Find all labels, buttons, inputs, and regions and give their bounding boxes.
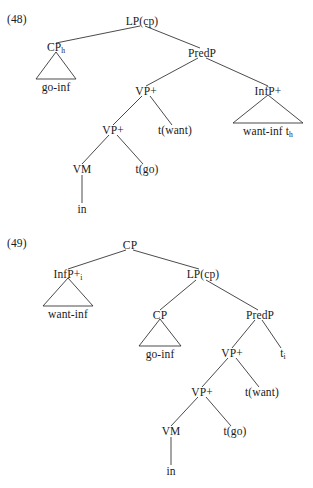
- edge-vpplus-vm: [82, 135, 109, 164]
- tree-48-leaf-want-inf-t-label: want-inf t: [243, 125, 289, 137]
- triangle-want-inf-49: [43, 278, 93, 306]
- tree-49-node-vm-label: VM: [162, 425, 181, 437]
- tree-49-node-cp-inner: CP: [153, 310, 167, 322]
- tree-49-node-vp-plus-lower-label: VP+: [191, 386, 213, 398]
- edge-vpplus-vpplus: [113, 96, 142, 125]
- edge-predp-vpplus-49: [232, 320, 255, 348]
- tree-49-node-lp-cp: LP(cp): [187, 269, 220, 281]
- tree-48-node-vp-plus-lower: VP+: [102, 125, 124, 137]
- tree-49-leaf-want-inf: want-inf: [48, 309, 88, 321]
- tree-48-node-t-go-label: t(go): [136, 163, 159, 175]
- tree-48-node-cp-h-label: CP: [47, 41, 61, 53]
- tree-49-node-lp-cp-label: LP(cp): [187, 268, 220, 280]
- tree-49-node-predp: PredP: [246, 310, 274, 322]
- edge-predp-ti: [262, 320, 281, 348]
- tree-49-node-predp-label: PredP: [246, 309, 274, 321]
- tree-49-node-cp-root: CP: [123, 240, 137, 252]
- syntax-tree-figure-48: (48) LP(cp) CPh PredP VP+ In: [0, 0, 313, 228]
- tree-48-node-cp-h: CPh: [47, 42, 65, 54]
- tree-48-node-t-go: t(go): [136, 164, 159, 176]
- tree-49-node-infp-plus-i-subscript: i: [80, 273, 82, 282]
- triangle-want-inf: [233, 95, 303, 123]
- tree-49-node-t-go: t(go): [224, 426, 247, 438]
- tree-49-leaf-in-label: in: [166, 465, 175, 477]
- tree-48-leaf-want-inf-t: want-inf th: [243, 126, 293, 138]
- triangle-go-inf-49: [139, 319, 181, 346]
- tree-49-node-cp-inner-label: CP: [153, 309, 167, 321]
- tree-49-node-t-want: t(want): [245, 387, 279, 399]
- tree-48-leaf-in: in: [77, 204, 86, 216]
- tree-49-node-t-go-label: t(go): [224, 425, 247, 437]
- edge-lpcp-cph: [56, 26, 140, 43]
- tree-49-node-vp-plus-lower: VP+: [191, 387, 213, 399]
- edge-vpplus-vm-49: [171, 397, 198, 426]
- edge-lpcp-predp-49: [206, 280, 258, 310]
- tree-48-leaf-go-inf: go-inf: [42, 82, 71, 94]
- edge-vpplus-twant: [150, 96, 172, 125]
- edge-vpplus-vpplus-49: [202, 358, 228, 387]
- tree-48-node-infp-plus: InfP+: [255, 86, 282, 98]
- tree-49-node-infp-plus-i-label: InfP+: [53, 268, 80, 280]
- edge-lpcp-predp: [145, 26, 200, 48]
- tree-48-node-lp-cp: LP(cp): [126, 16, 159, 28]
- tree-49-node-t-i: ti: [280, 348, 286, 360]
- tree-48-node-vp-plus-upper-label: VP+: [135, 85, 157, 97]
- edge-vpplus-twant-49: [236, 358, 259, 387]
- syntax-tree-figure-49: (49) CP InfP+i LP(cp): [0, 228, 313, 488]
- tree-49-leaf-want-inf-label: want-inf: [48, 308, 88, 320]
- edge-predp-vpplus: [146, 58, 198, 86]
- tree-48-leaf-go-inf-label: go-inf: [42, 81, 71, 93]
- tree-48-leaf-want-inf-t-subscript: h: [289, 130, 293, 139]
- edge-cp-infp: [68, 250, 126, 269]
- tree-48-leaf-in-label: in: [77, 203, 86, 215]
- tree-48-lines: [0, 0, 313, 228]
- triangle-go-inf: [36, 52, 76, 79]
- tree-49-leaf-go-inf-label: go-inf: [146, 348, 175, 360]
- tree-49-node-vp-plus-upper: VP+: [221, 348, 243, 360]
- tree-49-node-t-want-label: t(want): [245, 386, 279, 398]
- tree-48-node-t-want-label: t(want): [158, 124, 192, 136]
- edge-lpcp-cp-inner: [160, 280, 196, 310]
- tree-48-node-vp-plus-lower-label: VP+: [102, 124, 124, 136]
- tree-49-node-infp-plus-i: InfP+i: [53, 269, 82, 281]
- tree-49-node-cp-root-label: CP: [123, 239, 137, 251]
- tree-49-leaf-in: in: [166, 466, 175, 478]
- edge-cp-lpcp: [133, 250, 199, 269]
- edge-predp-infp: [206, 58, 268, 86]
- tree-49-node-vm: VM: [162, 426, 181, 438]
- tree-48-node-predp-label: PredP: [188, 47, 216, 59]
- edge-vpplus-tgo: [117, 135, 143, 164]
- tree-48-node-vm-label: VM: [73, 163, 92, 175]
- edge-vpplus-tgo-49: [206, 397, 231, 426]
- tree-48-node-lp-cp-label: LP(cp): [126, 15, 159, 27]
- tree-48-node-infp-plus-label: InfP+: [255, 85, 282, 97]
- tree-48-node-t-want: t(want): [158, 125, 192, 137]
- tree-48-node-cp-h-subscript: h: [61, 46, 65, 55]
- tree-49-node-vp-plus-upper-label: VP+: [221, 347, 243, 359]
- tree-49-node-t-i-subscript: i: [284, 352, 286, 361]
- tree-48-node-vm: VM: [73, 164, 92, 176]
- tree-48-node-vp-plus-upper: VP+: [135, 86, 157, 98]
- tree-48-node-predp: PredP: [188, 48, 216, 60]
- tree-49-leaf-go-inf: go-inf: [146, 349, 175, 361]
